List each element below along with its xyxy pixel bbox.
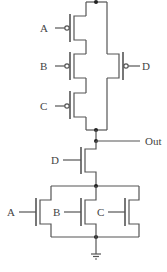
nmos-b [64,186,96,237]
output-node [86,128,140,143]
label-a-top: A [40,22,48,34]
label-c-bottom: C [97,206,104,218]
top-rail [86,0,107,4]
label-a-bottom: A [7,206,15,218]
label-b-bottom: B [53,206,60,218]
label-c-top: C [40,100,47,112]
label-b-top: B [40,60,47,72]
label-out: Out [145,135,162,147]
pmos-d [107,2,140,130]
nmos-c [108,186,139,237]
nmos-a [19,186,51,237]
cmos-schematic: A B C D Out D [0,0,167,272]
pmos-b [55,40,86,80]
label-d-top: D [142,60,150,72]
ground-icon [91,237,101,259]
label-d-bottom: D [51,154,59,166]
nmos-d [63,141,96,186]
pmos-a [55,2,86,42]
pmos-c [55,78,86,130]
vdd-node [94,0,98,4]
